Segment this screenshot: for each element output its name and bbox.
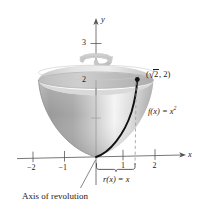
x-tick-label-neg1: −1 [59,164,68,172]
revolution-arrow-loop [79,56,113,66]
x-tick-label-1: 1 [121,162,125,170]
x-tick-label-2: 2 [153,162,157,170]
axis-of-revolution-leader [81,160,96,188]
y-axis-label: y [101,15,105,24]
radius-brace [97,164,136,172]
function-label-base: f(x) = x [148,106,174,116]
function-label-exponent: 2 [174,105,177,111]
function-label: f(x) = x2 [148,106,176,115]
figure-canvas [0,0,200,209]
x-tick-label-neg2: −2 [27,164,36,172]
x-axis-label: x [188,150,192,159]
point-coordinate-label: ( √ 2 , 2) [146,69,170,79]
axis-of-revolution-caption: Axis of revolution [22,192,88,201]
point-label-rest: , 2) [159,69,170,79]
marked-point-sqrt2-2 [135,77,140,82]
y-tick-label-2: 2 [82,76,86,84]
figure-solid-of-revolution: y x 3 2 −2 −1 1 2 ( √ 2 , 2) f(x) = x2 r… [0,0,200,209]
radius-label: r(x) = x [103,175,130,184]
y-tick-label-3: 3 [82,39,86,47]
